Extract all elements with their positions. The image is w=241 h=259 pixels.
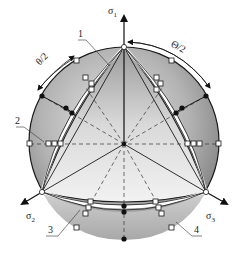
sigma3-label: σ3 [206, 211, 215, 224]
curve-1-label: 1 [78, 29, 83, 39]
curve-4-label: 4 [194, 225, 199, 235]
curve-2-label: 2 [15, 116, 20, 126]
stress-diagram [0, 0, 241, 259]
sigma3-axis [206, 192, 227, 204]
sigma2-label: σ2 [26, 211, 35, 224]
diagram-canvas: σ1 σ2 σ3 θ/2 Θ/2 1 2 3 4 [0, 0, 241, 259]
sigma1-label: σ1 [108, 6, 117, 19]
sigma2-axis [22, 192, 42, 204]
curve-3-label: 3 [48, 225, 53, 235]
